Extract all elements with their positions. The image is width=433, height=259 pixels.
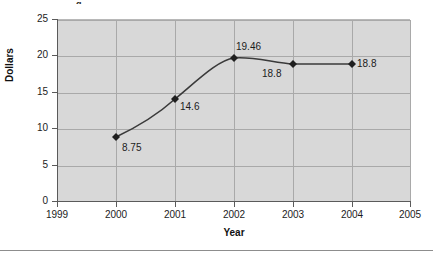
gridline-x-2001: [175, 20, 176, 201]
gridline-x-2002: [234, 20, 235, 201]
y-tick-5: [52, 165, 57, 166]
data-label-2000: 8.75: [122, 142, 141, 153]
x-tick-2000: [116, 202, 117, 207]
y-axis-line: [57, 19, 58, 202]
gridline-x-2000: [116, 20, 117, 201]
x-tick-2002: [234, 202, 235, 207]
y-tick-label-20: 20: [37, 50, 48, 60]
data-label-2001: 14.6: [180, 101, 199, 112]
x-tick-label-2001: 2001: [164, 209, 186, 220]
y-tick-15: [52, 92, 57, 93]
plot-surface: [58, 20, 410, 201]
plot-area: [57, 19, 410, 201]
x-tick-label-1999: 1999: [46, 209, 68, 220]
bottom-divider: [0, 250, 433, 251]
gridline-x-2004: [352, 20, 353, 201]
data-label-2004: 18.8: [357, 58, 376, 69]
x-tick-2003: [293, 202, 294, 207]
x-tick-1999: [57, 202, 58, 207]
y-tick-label-5: 5: [42, 160, 48, 170]
y-axis-title: Dollars: [4, 48, 15, 82]
gridline-x-2005: [410, 20, 411, 201]
data-label-2002: 19.46: [236, 41, 261, 52]
x-tick-label-2004: 2004: [341, 209, 363, 220]
y-tick-label-10: 10: [37, 123, 48, 133]
x-tick-label-2003: 2003: [282, 209, 304, 220]
x-axis-title: Year: [57, 227, 411, 238]
x-tick-2004: [352, 202, 353, 207]
y-tick-20: [52, 55, 57, 56]
y-tick-label-15: 15: [37, 87, 48, 97]
y-tick-label-0: 0: [42, 196, 48, 206]
data-label-2003: 18.8: [262, 68, 281, 79]
y-tick-label-25: 25: [37, 14, 48, 24]
x-tick-label-2005: 2005: [399, 209, 421, 220]
y-tick-25: [52, 19, 57, 20]
x-tick-2005: [410, 202, 411, 207]
x-tick-label-2002: 2002: [223, 209, 245, 220]
x-tick-2001: [175, 202, 176, 207]
chart-figure: g 25 20 15 10 5 0 1999: [0, 0, 433, 259]
gridline-x-2003: [293, 20, 294, 201]
chart-title-truncated: g: [76, 0, 90, 4]
y-tick-10: [52, 128, 57, 129]
x-tick-label-2000: 2000: [105, 209, 127, 220]
